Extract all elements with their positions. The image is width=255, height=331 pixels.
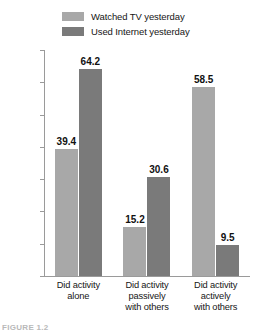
bar-used-internet: 9.5 bbox=[216, 245, 239, 276]
bar-value-label: 39.4 bbox=[57, 136, 76, 147]
bar-group: 58.59.5 bbox=[181, 50, 250, 276]
legend-swatch-used-internet bbox=[62, 27, 84, 36]
bar-group: 15.230.6 bbox=[113, 50, 182, 276]
bar-value-label: 58.5 bbox=[194, 74, 213, 85]
figure-caption: FIGURE 1.2 bbox=[2, 323, 49, 331]
bar-value-label: 15.2 bbox=[125, 214, 144, 225]
bar-used-internet: 30.6 bbox=[147, 177, 170, 276]
x-axis-category-labels: Did activityaloneDid activitypassivelywi… bbox=[44, 280, 250, 325]
bar-group: 39.464.2 bbox=[44, 50, 113, 276]
x-axis-category-label: Did activityalone bbox=[44, 280, 113, 302]
chart-legend: Watched TV yesterday Used Internet yeste… bbox=[62, 10, 242, 40]
legend-item-watched-tv: Watched TV yesterday bbox=[62, 10, 242, 23]
legend-swatch-watched-tv bbox=[62, 12, 84, 21]
bar-value-label: 9.5 bbox=[221, 232, 235, 243]
bar-watched-tv: 15.2 bbox=[123, 227, 146, 276]
bar-value-label: 30.6 bbox=[149, 164, 168, 175]
bar-value-label: 64.2 bbox=[81, 56, 100, 67]
legend-label-used-internet: Used Internet yesterday bbox=[91, 26, 190, 37]
bar-watched-tv: 39.4 bbox=[55, 149, 78, 276]
figure-bar-chart: Watched TV yesterday Used Internet yeste… bbox=[0, 0, 255, 331]
x-axis-line bbox=[44, 276, 250, 277]
legend-item-used-internet: Used Internet yesterday bbox=[62, 25, 242, 38]
bar-used-internet: 64.2 bbox=[79, 69, 102, 276]
y-axis-tick bbox=[40, 276, 45, 277]
legend-label-watched-tv: Watched TV yesterday bbox=[91, 11, 185, 22]
plot-area: 39.464.215.230.658.59.5 bbox=[44, 50, 250, 276]
bar-watched-tv: 58.5 bbox=[192, 87, 215, 276]
x-axis-category-label: Did activitypassivelywith others bbox=[113, 280, 182, 314]
x-axis-category-label: Did activityactivelywith others bbox=[181, 280, 250, 314]
